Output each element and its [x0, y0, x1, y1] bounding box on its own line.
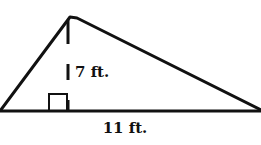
triangle-diagram: 7 ft. 11 ft.	[0, 0, 261, 145]
base-label: 11 ft.	[103, 119, 148, 137]
triangle-outline	[0, 17, 261, 111]
right-angle-marker	[49, 94, 67, 111]
height-label: 7 ft.	[75, 63, 109, 81]
